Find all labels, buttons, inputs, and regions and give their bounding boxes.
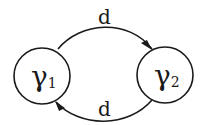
diagram-canvas: γ1 γ2 d d	[0, 0, 207, 125]
edge-top	[58, 27, 152, 49]
edge-top-label: d	[98, 5, 111, 29]
edge-bottom-label: d	[98, 97, 111, 121]
arrowhead-top-icon	[141, 40, 152, 50]
